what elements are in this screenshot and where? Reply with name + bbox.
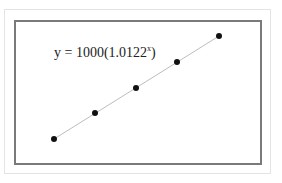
data-point: [92, 110, 98, 116]
equation-base: y = 1000(1.0122: [54, 45, 147, 60]
data-point: [133, 85, 139, 91]
data-point: [51, 136, 57, 142]
equation-label: y = 1000(1.0122x): [54, 44, 156, 61]
data-point: [174, 59, 180, 65]
data-point: [216, 33, 222, 39]
equation-close: ): [151, 45, 156, 60]
chart-svg: [0, 0, 282, 183]
